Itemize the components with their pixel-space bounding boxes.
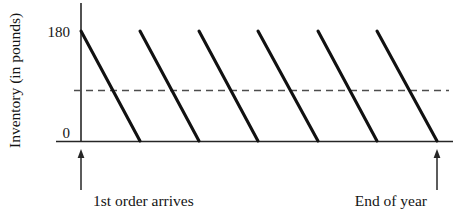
y-tick-label-180: 180	[48, 24, 71, 40]
inventory-chart-figure: Inventory (in pounds) 180 0	[0, 0, 453, 213]
end-of-year-label: End of year	[355, 192, 428, 209]
y-tick-label-0: 0	[63, 125, 71, 141]
y-axis-title: Inventory (in pounds)	[6, 13, 24, 148]
first-order-arrives-label: 1st order arrives	[93, 192, 194, 209]
chart-canvas: Inventory (in pounds) 180 0	[0, 0, 453, 213]
